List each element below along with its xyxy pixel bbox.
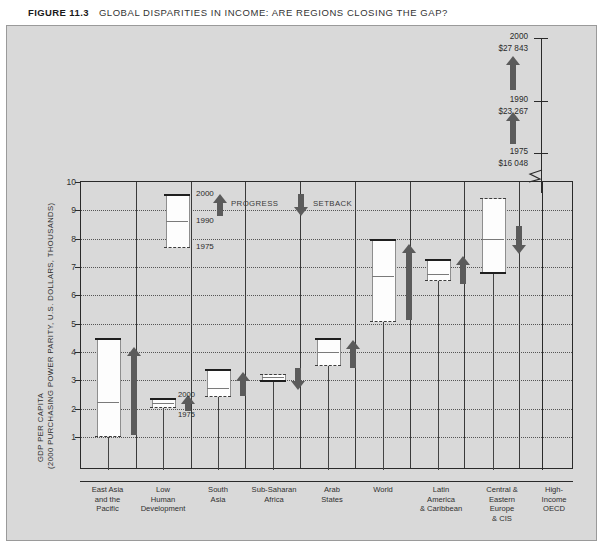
y-axis-label-6: 6 (54, 290, 76, 300)
page-title: GLOBAL DISPARITIES IN INCOME: ARE REGION… (99, 7, 448, 18)
x-label-line: & CIS (471, 514, 533, 524)
setback-arrow-central-eastern-europe (511, 226, 526, 254)
marker-2000-world (370, 239, 396, 241)
marker-1975-east-asia (95, 436, 121, 437)
category-separator-7 (464, 182, 465, 468)
oecd-tick-1975 (534, 153, 548, 154)
marker-2000-south-asia (205, 369, 231, 371)
category-separator-8 (519, 182, 520, 468)
marker-1975-latin-america (425, 280, 451, 281)
x-axis-line (80, 481, 573, 482)
marker-1990-central-eastern-europe (482, 239, 504, 240)
marker-1990-low-human-development (152, 403, 174, 404)
oecd-year-1975: 1975 (460, 147, 528, 156)
range-box-latin-america (427, 259, 451, 282)
marker-1990-east-asia (97, 402, 119, 403)
marker-2000-central-eastern-europe (480, 272, 506, 274)
marker-1990-latin-america (427, 274, 449, 275)
x-label-line: High- (527, 485, 581, 495)
progress-arrow-east-asia (126, 347, 141, 435)
x-label-line: Arab (306, 485, 358, 495)
gridline-1 (81, 437, 572, 438)
x-label-line: & Caribbean (408, 504, 474, 514)
category-separator-5 (355, 182, 356, 468)
gridline-2 (81, 409, 572, 410)
x-label-line: and the (80, 495, 135, 505)
oecd-value-2000: $27 843 (450, 44, 528, 53)
figure-number: FIGURE 11.3 (28, 7, 89, 18)
range-box-east-asia (97, 338, 121, 437)
marker-2000-latin-america (425, 259, 451, 261)
x-label-latin-america: Latin America & Caribbean (408, 485, 474, 514)
marker-2000-east-asia (95, 338, 121, 340)
marker-2000-low-human-development (150, 398, 176, 400)
legend-setback-arrow-icon (293, 194, 308, 216)
y-axis-title-line1: GDP PER CAPITA (36, 393, 45, 462)
x-label-line: America (408, 495, 474, 505)
stem-sub-saharan-africa (273, 381, 274, 470)
y-axis-label-4: 4 (54, 347, 76, 357)
progress-arrow-arab-states (346, 340, 360, 368)
y-axis-label-5: 5 (54, 319, 76, 329)
marker-1990-arab-states (317, 352, 339, 353)
x-label-line: Latin (408, 485, 474, 495)
x-label-line: Pacific (80, 504, 135, 514)
legend-marker-2000 (164, 194, 190, 196)
gridline-6 (81, 295, 572, 296)
marker-1990-world (372, 276, 394, 277)
x-label-south-asia: South Asia (192, 485, 244, 504)
marker-2000-arab-states (315, 338, 341, 340)
oecd-progress-arrow-lower (505, 112, 521, 144)
x-label-line: South (192, 485, 244, 495)
progress-arrow-south-asia (236, 372, 250, 396)
y-axis-label-8: 8 (54, 234, 76, 244)
progress-arrow-world (401, 244, 416, 320)
gridline-3 (81, 380, 572, 381)
legend-progress-arrow-icon (212, 194, 227, 216)
stem-latin-america (438, 281, 439, 470)
inline-label-2000-low-human-development: 2000 (178, 390, 195, 399)
legend-setback-label: SETBACK (313, 199, 352, 208)
y-axis-label-3: 3 (54, 375, 76, 385)
marker-1975-sub-saharan-africa (260, 374, 286, 375)
stem-east-asia (108, 437, 109, 470)
legend-label-1990: 1990 (196, 216, 214, 225)
marker-1975-world (370, 321, 396, 322)
x-label-line: Europe (471, 504, 533, 514)
x-label-line: Development (132, 504, 194, 514)
figure-page: FIGURE 11.3 GLOBAL DISPARITIES IN INCOME… (0, 0, 603, 546)
x-label-line: Sub-Saharan (241, 485, 307, 495)
oecd-year-2000: 2000 (460, 32, 528, 41)
oecd-tick-2000 (534, 38, 548, 39)
inline-label-1975-low-human-development: 1975 (178, 410, 195, 419)
x-label-line: Africa (241, 495, 307, 505)
stem-central-eastern-europe (493, 273, 494, 470)
legend-progress-label: PROGRESS (231, 199, 278, 208)
stem-south-asia (218, 397, 219, 470)
y-axis-label-9: 9 (54, 205, 76, 215)
legend-marker-1990 (166, 221, 188, 222)
stem-low-human-development (163, 408, 164, 470)
x-label-line: Human (132, 495, 194, 505)
range-box-south-asia (207, 369, 231, 397)
stem-high-income-oecd (542, 182, 543, 470)
legend-label-1975: 1975 (196, 242, 214, 251)
x-label-high-income-oecd: High- Income OECD (527, 485, 581, 514)
oecd-value-1975: $16 048 (450, 159, 528, 168)
x-label-line: Low (132, 485, 194, 495)
x-label-line: World (356, 485, 410, 495)
x-label-central-eastern-europe: Central & Eastern Europe & CIS (471, 485, 533, 523)
y-axis-label-7: 7 (54, 262, 76, 272)
x-label-line: Eastern (471, 495, 533, 505)
x-label-low-human-development: Low Human Development (132, 485, 194, 514)
setback-arrow-sub-saharan-africa (291, 368, 305, 390)
x-label-world: World (356, 485, 410, 495)
progress-arrow-latin-america (456, 256, 470, 284)
x-label-line: East Asia (80, 485, 135, 495)
marker-1975-central-eastern-europe (480, 198, 506, 199)
x-label-line: Income (527, 495, 581, 505)
oecd-progress-arrow-upper (505, 56, 521, 90)
stem-world (383, 322, 384, 470)
x-label-east-asia: East Asia and the Pacific (80, 485, 135, 514)
oecd-tick-1990 (534, 101, 548, 102)
